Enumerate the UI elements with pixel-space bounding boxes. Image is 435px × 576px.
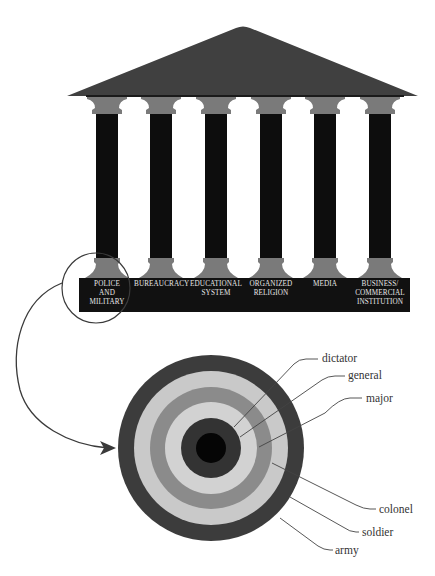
rank-label-soldier: soldier: [362, 526, 393, 538]
pillar-label-organized-religion: ORGANIZED RELIGION: [244, 280, 298, 298]
pillar-organized-religion: [249, 97, 293, 278]
rank-label-general: general: [348, 369, 382, 381]
rank-label-dictator: dictator: [322, 352, 357, 364]
ring-dictator: [196, 433, 226, 463]
pillar-business: [358, 97, 402, 278]
pillar-educational-system: [194, 97, 238, 278]
leader-soldier: [290, 497, 359, 532]
rank-label-major: major: [366, 392, 393, 404]
pillar-label-bureaucracy: BUREAUCRACY: [134, 280, 188, 289]
pillar-police-military: [85, 97, 129, 278]
pillar-media: [303, 97, 347, 278]
rank-label-colonel: colonel: [379, 503, 413, 515]
roof-base-line: [86, 95, 404, 97]
pillar-bureaucracy: [139, 97, 183, 278]
pillar-label-educational-system: EDUCATIONAL SYSTEM: [189, 280, 243, 298]
pillar-label-police-military: POLICE AND MILITARY: [80, 280, 134, 307]
rank-label-army: army: [335, 544, 359, 556]
pillars: [85, 97, 402, 278]
pillar-label-media: MEDIA: [298, 280, 352, 289]
temple-roof: [67, 27, 418, 97]
power-structure-diagram: POLICE AND MILITARY BUREAUCRACY EDUCATIO…: [0, 0, 435, 576]
pillar-label-business: BUSINESS/ COMMERCIAL INSTITUTION: [351, 280, 409, 307]
leader-army: [280, 518, 333, 550]
